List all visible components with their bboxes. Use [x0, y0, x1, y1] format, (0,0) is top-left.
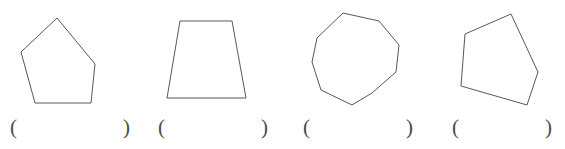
paren-close-1: ) [123, 112, 130, 142]
shape-pentagon-upright [21, 18, 95, 103]
shape-trapezoid [167, 21, 246, 98]
answer-blank-1[interactable] [22, 120, 118, 140]
answer-slot-4[interactable]: ( ) [452, 112, 552, 149]
answer-slot-3[interactable]: ( ) [303, 112, 413, 149]
shape-nonagon [312, 13, 399, 105]
paren-open-4: ( [452, 112, 459, 142]
worksheet-page: ( ) ( ) ( ) ( ) [0, 0, 565, 149]
answer-slot-1[interactable]: ( ) [10, 112, 130, 149]
answer-blank-3[interactable] [315, 120, 401, 140]
paren-close-2: ) [261, 112, 268, 142]
answer-blank-4[interactable] [464, 120, 540, 140]
shape-pentagon-rotated [461, 14, 538, 105]
paren-open-2: ( [158, 112, 165, 142]
paren-open-3: ( [303, 112, 310, 142]
answer-slot-2[interactable]: ( ) [158, 112, 268, 149]
paren-close-3: ) [406, 112, 413, 142]
paren-open-1: ( [10, 112, 17, 142]
paren-close-4: ) [545, 112, 552, 142]
answer-row: ( ) ( ) ( ) ( ) [0, 112, 565, 149]
answer-blank-2[interactable] [170, 120, 256, 140]
